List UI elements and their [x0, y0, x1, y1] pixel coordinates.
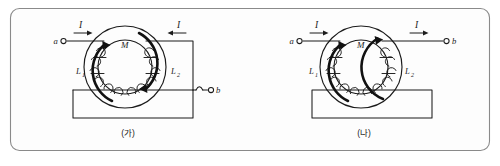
terminal-a-node[interactable]	[297, 38, 302, 43]
figure-root: a b I I M L 1 L 2 (가)	[0, 0, 500, 166]
terminal-b-node[interactable]	[208, 87, 213, 92]
coil-l2-letter: L	[170, 66, 176, 76]
panel-na-caption: (나)	[357, 128, 371, 138]
terminal-b-node[interactable]	[444, 38, 449, 43]
coil-l1-letter: L	[308, 66, 314, 76]
terminal-a-node[interactable]	[61, 38, 66, 43]
terminal-a-label: a	[54, 36, 58, 46]
terminal-a-label: a	[290, 36, 294, 46]
coil-l1-subscript: 1	[82, 72, 85, 78]
coil-l2-subscript: 2	[411, 72, 414, 78]
panel-ga-caption: (가)	[121, 128, 135, 138]
core-label: M	[120, 40, 129, 50]
coil-l1-letter: L	[75, 66, 81, 76]
coil-l2-letter: L	[404, 66, 410, 76]
terminal-b-label: b	[452, 36, 457, 46]
coil-l2-subscript: 2	[177, 72, 180, 78]
core-label: M	[356, 40, 365, 50]
circuit-figure: a b I I M L 1 L 2 (가)	[0, 0, 500, 166]
terminal-b-label: b	[216, 85, 221, 95]
coil-l1-subscript: 1	[315, 72, 318, 78]
